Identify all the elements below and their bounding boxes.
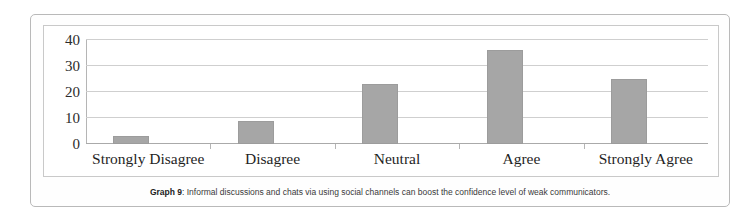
chart-frame: 010203040 Strongly DisagreeDisagreeNeutr… [43, 25, 719, 177]
bar [113, 136, 149, 144]
gridline-30 [86, 65, 708, 66]
y-tick-label-40: 40 [50, 33, 80, 48]
caption-text: Informal discussions and chats via using… [187, 187, 610, 197]
bar [238, 121, 274, 144]
x-tick-3 [459, 144, 460, 149]
x-tick-label-0: Strongly Disagree [86, 150, 210, 167]
x-tick-1 [210, 144, 211, 149]
figure-caption: Graph 9: Informal discussions and chats … [43, 187, 717, 198]
bar [487, 50, 523, 144]
y-axis-tick-labels: 010203040 [44, 40, 80, 144]
x-tick-4 [584, 144, 585, 149]
y-tick-label-0: 0 [50, 137, 80, 152]
x-tick-2 [335, 144, 336, 149]
y-tick-label-10: 10 [50, 111, 80, 126]
plot-area [86, 40, 708, 144]
bar [611, 79, 647, 144]
x-tick-label-3: Agree [459, 150, 583, 167]
y-tick-label-30: 30 [50, 59, 80, 74]
caption-label: Graph 9 [150, 187, 182, 197]
x-tick-label-1: Disagree [210, 150, 334, 167]
gridline-40 [86, 39, 708, 40]
x-tick-label-2: Neutral [335, 150, 459, 167]
x-tick-label-4: Strongly Agree [584, 150, 708, 167]
bar [362, 84, 398, 144]
x-axis: Strongly DisagreeDisagreeNeutralAgreeStr… [86, 144, 708, 178]
figure-frame: 010203040 Strongly DisagreeDisagreeNeutr… [30, 14, 730, 207]
y-tick-label-20: 20 [50, 85, 80, 100]
